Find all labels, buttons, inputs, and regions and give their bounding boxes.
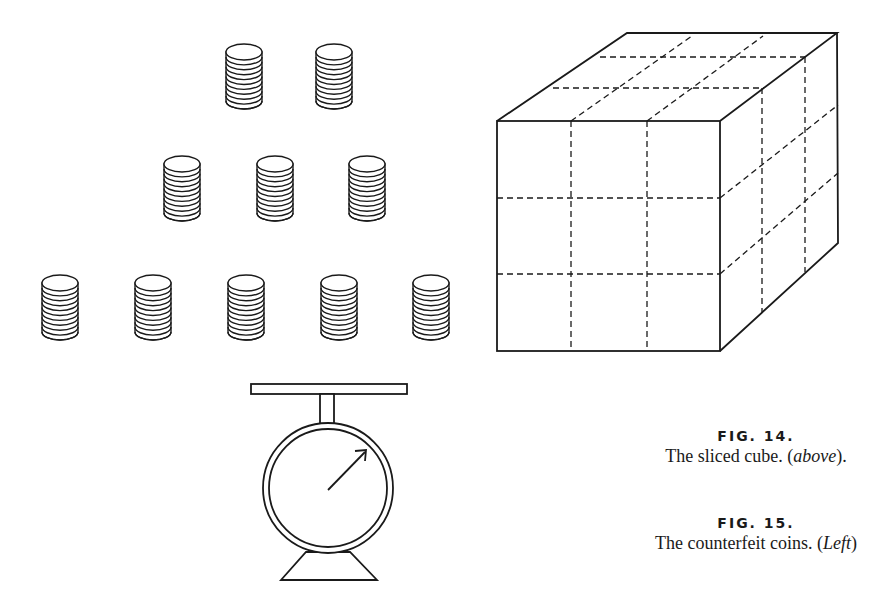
coin-stack bbox=[42, 275, 78, 340]
fig15-text-italic: Left bbox=[823, 533, 851, 553]
coin-stack bbox=[257, 156, 293, 221]
coin-stack bbox=[226, 44, 262, 109]
fig15-text-end: ) bbox=[851, 533, 857, 553]
scale-pan bbox=[251, 384, 407, 394]
fig15-caption: FIG. 15. The counterfeit coins. (Left) bbox=[636, 515, 876, 554]
fig14-text-end: ). bbox=[836, 446, 847, 466]
scale-base bbox=[281, 552, 377, 580]
sliced-cube bbox=[497, 33, 838, 351]
fig14-text-main: The sliced cube. ( bbox=[665, 446, 793, 466]
fig15-text: The counterfeit coins. (Left) bbox=[636, 533, 876, 554]
fig15-text-main: The counterfeit coins. ( bbox=[655, 533, 823, 553]
fig15-label: FIG. 15. bbox=[636, 515, 876, 531]
coin-stack bbox=[135, 275, 171, 340]
coin-stack bbox=[349, 156, 385, 221]
weighing-scale bbox=[251, 384, 407, 580]
fig14-label: FIG. 14. bbox=[636, 428, 876, 444]
coin-stack bbox=[413, 275, 449, 340]
fig14-caption: FIG. 14. The sliced cube. (above). bbox=[636, 428, 876, 467]
coin-stack bbox=[228, 275, 264, 340]
fig14-text: The sliced cube. (above). bbox=[636, 446, 876, 467]
counterfeit-coin-stacks bbox=[42, 44, 449, 340]
cube-slice-lines bbox=[497, 36, 838, 351]
fig14-text-italic: above bbox=[793, 446, 836, 466]
coin-stack bbox=[316, 44, 352, 109]
coin-stack bbox=[321, 275, 357, 340]
coin-stack bbox=[164, 156, 200, 221]
cube-outline bbox=[497, 33, 838, 351]
scale-dial-inner bbox=[269, 429, 387, 547]
scale-stem bbox=[320, 394, 334, 424]
